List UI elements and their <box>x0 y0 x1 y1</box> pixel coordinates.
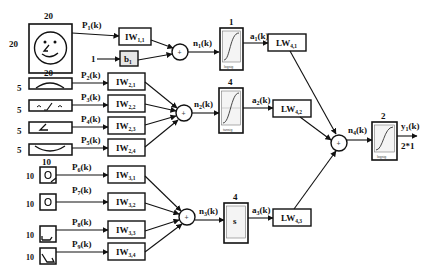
p6-size-top: 10 <box>42 157 52 167</box>
a2-label: a2(k) <box>252 95 271 106</box>
p9-label: P9(k) <box>72 239 92 250</box>
corner-icon <box>40 248 56 264</box>
p1-size-left: 20 <box>9 39 19 49</box>
sum-node-4: + <box>331 135 347 151</box>
svg-text:+: + <box>185 214 189 221</box>
iw-2-2-block: IW2,2 <box>108 95 145 112</box>
a1-label: a1(k) <box>250 31 269 42</box>
iw-3-3-block: IW3,3 <box>108 221 145 238</box>
iw-2-4-block: IW2,4 <box>108 139 145 156</box>
eye-icon <box>40 194 56 210</box>
p2-label: P2(k) <box>81 70 101 81</box>
svg-text:logsig: logsig <box>377 155 386 159</box>
sum-node-2: + <box>176 105 192 121</box>
n2-label: n2(k) <box>194 99 213 110</box>
p2-size-left: 5 <box>17 83 22 93</box>
p7-label: P7(k) <box>72 185 92 196</box>
n3-label: n3(k) <box>199 206 218 217</box>
sum-node-1: + <box>172 44 188 60</box>
logsig-icon-layer1: logsig <box>220 28 243 70</box>
eyes-nose-icon <box>29 100 72 111</box>
network-diagram: 20 20 P1(k) IW1,1 1 b1 + n1(k) 1 logsig … <box>0 0 432 278</box>
layer3-size: 4 <box>233 192 238 202</box>
bias-block: b1 <box>120 51 138 66</box>
iw-1-1-block: IW1,1 <box>119 28 151 45</box>
sum-node-3: + <box>179 209 195 225</box>
layer1-size: 1 <box>229 17 234 27</box>
p4-size-left: 5 <box>17 126 22 136</box>
svg-text:logsig: logsig <box>224 65 233 69</box>
mouth-icon <box>29 144 72 155</box>
lw-4-1-block: LW4,1 <box>268 34 306 51</box>
p6-size-left: 10 <box>26 172 34 181</box>
svg-text:+: + <box>182 110 186 117</box>
bias-input-label: 1 <box>91 54 96 64</box>
lw-4-3-block: LW4,3 <box>273 209 311 226</box>
tansig-icon-layer2: tansig <box>219 88 243 133</box>
p3-label: P3(k) <box>81 92 101 103</box>
softmax-icon-layer3: s <box>224 203 248 243</box>
iw-3-2-block: IW3,2 <box>108 193 145 210</box>
iw-3-4-block: IW3,4 <box>108 243 145 260</box>
p9-size-left: 10 <box>26 253 34 262</box>
p5-size-left: 5 <box>17 145 22 155</box>
p8-size-left: 10 <box>26 231 34 240</box>
p4-label: P4(k) <box>81 114 101 125</box>
logsig-icon-output: logsig <box>372 122 397 160</box>
p1-arrow <box>72 33 119 36</box>
lw-4-2-block: LW4,2 <box>273 100 311 117</box>
svg-text:+: + <box>337 140 341 147</box>
n1-label: n1(k) <box>193 38 212 49</box>
svg-text:+: + <box>178 49 182 56</box>
face-icon <box>29 24 72 73</box>
iw-3-1-block: IW3,1 <box>108 166 145 183</box>
svg-text:tansig: tansig <box>223 128 232 132</box>
p3-size-left: 5 <box>17 105 22 115</box>
iw-2-1-block: IW2,1 <box>108 73 145 90</box>
p2-size-top: 20 <box>44 68 54 78</box>
p8-label: P8(k) <box>72 217 92 228</box>
p1-label: P1(k) <box>82 20 102 31</box>
output-label: y1(k) <box>401 121 420 132</box>
p5-label: P5(k) <box>81 135 101 146</box>
iw-2-3-block: IW2,3 <box>108 117 145 134</box>
layer4-size: 2 <box>381 111 386 121</box>
p6-label: P6(k) <box>72 162 92 173</box>
eyebrow-icon <box>29 78 72 89</box>
layer2-size: 4 <box>228 77 233 87</box>
n4-label: n4(k) <box>348 125 367 136</box>
svg-text:s: s <box>233 216 237 226</box>
p7-size-left: 10 <box>26 200 34 209</box>
output-dims: 2*1 <box>401 141 415 151</box>
p1-size-top: 20 <box>44 11 54 21</box>
diagram-svg: 20 20 P1(k) IW1,1 1 b1 + n1(k) 1 logsig … <box>0 0 432 278</box>
nose-icon <box>29 122 72 133</box>
corner-icon <box>40 226 56 242</box>
eye-icon <box>40 167 56 183</box>
a3-label: a3(k) <box>252 205 271 216</box>
